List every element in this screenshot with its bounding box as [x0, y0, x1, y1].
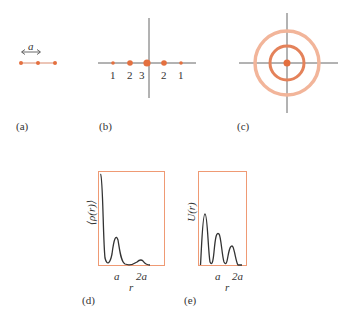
- spacing-label: a: [28, 41, 34, 52]
- site-dot-1: [179, 61, 183, 65]
- site-label: 1: [110, 70, 116, 81]
- site-dot-2: [127, 60, 133, 66]
- e-xtick-2a: 2a: [232, 271, 243, 282]
- d-x-axis-label: r: [129, 282, 133, 293]
- panel-a-label: (a): [16, 121, 28, 132]
- e-x-axis-label: r: [225, 282, 229, 293]
- site-label: 3: [139, 70, 145, 81]
- site-label: 1: [178, 70, 184, 81]
- panel-d-label: (d): [82, 295, 95, 306]
- panel-c-label: (c): [237, 121, 249, 132]
- d-plot-frame: [99, 172, 165, 266]
- e-xtick-a: a: [215, 271, 221, 282]
- center-dot: [284, 60, 291, 67]
- atom-dot: [36, 61, 40, 65]
- site-label: 2: [127, 70, 133, 81]
- d-xtick-2a: 2a: [136, 271, 147, 282]
- d-xtick-a: a: [114, 271, 120, 282]
- d-density-curve: [101, 174, 151, 265]
- site-dot-1: [111, 61, 115, 65]
- site-dot-3: [143, 59, 150, 66]
- site-label: 2: [161, 70, 167, 81]
- e-y-axis-label: U(r): [185, 192, 197, 232]
- figure: a 1 2 3 2 1 (a) (b) (c) ⟨ρ(r)⟩ a 2a r (d…: [0, 0, 356, 311]
- site-dot-2: [161, 60, 167, 66]
- panel-b-label: (b): [99, 121, 112, 132]
- atom-dot: [19, 61, 23, 65]
- e-potential-curve: [201, 214, 243, 265]
- atom-dot: [53, 61, 57, 65]
- panel-a-drawing: [0, 0, 356, 311]
- d-y-axis-label: ⟨ρ(r)⟩: [85, 193, 98, 233]
- panel-e-label: (e): [184, 295, 196, 306]
